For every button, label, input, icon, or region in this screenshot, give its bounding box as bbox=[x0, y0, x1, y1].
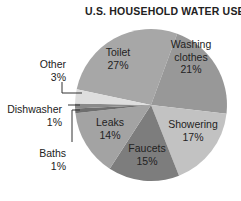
slice-label-toilet: Toilet27% bbox=[106, 46, 131, 71]
slice-label-baths: Baths1% bbox=[39, 147, 66, 172]
slice-label-other: Other3% bbox=[40, 58, 67, 83]
slice-label-dishwasher: Dishwasher1% bbox=[7, 103, 62, 128]
slice-label-leaks: Leaks14% bbox=[96, 116, 124, 141]
pie-chart: Toilet27%Washingclothes21%Showering17%Fa… bbox=[0, 0, 241, 201]
